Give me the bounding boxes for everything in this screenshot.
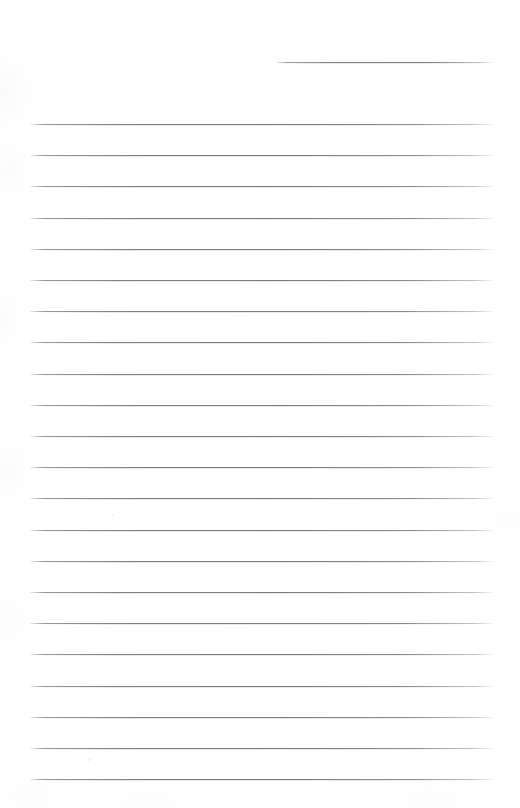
scan-speck-icon (88, 758, 91, 761)
header-rule-line (277, 62, 492, 63)
body-rule-line (30, 311, 493, 312)
body-rule-line (30, 124, 493, 125)
body-rule-line (30, 405, 493, 406)
body-rule-line (30, 436, 493, 437)
body-rule-line (30, 686, 493, 687)
ruled-paper-page (0, 0, 520, 808)
body-rule-line (30, 467, 493, 468)
body-rule-line (30, 779, 493, 780)
body-rule-line (30, 280, 493, 281)
body-rule-line (30, 530, 493, 531)
body-rule-line (30, 748, 493, 749)
body-rule-line (30, 218, 493, 219)
body-rule-line (30, 498, 493, 499)
body-rule-line (30, 155, 493, 156)
body-rule-line (30, 654, 493, 655)
scan-speck-icon (112, 514, 114, 516)
body-rule-line (30, 374, 493, 375)
body-rule-line (30, 717, 493, 718)
body-rule-line (30, 561, 493, 562)
body-rule-line (30, 249, 493, 250)
body-rule-line (30, 342, 493, 343)
body-rule-line (30, 623, 493, 624)
body-rule-line (30, 186, 493, 187)
body-rule-line (30, 592, 493, 593)
